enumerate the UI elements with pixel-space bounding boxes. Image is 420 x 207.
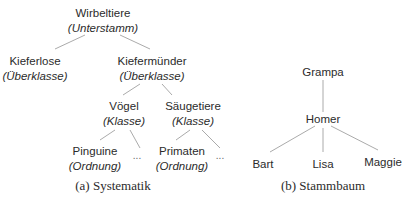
caption-systematik: (a) Systematik (75, 178, 150, 194)
node-maggie: Maggie (364, 155, 402, 170)
node-voegel: Vögel (Klasse) (103, 99, 145, 129)
node-rank: (Ordnung) (156, 159, 208, 174)
ellipsis-node: ... (133, 150, 141, 161)
node-name: Homer (306, 112, 341, 127)
node-name: Maggie (364, 155, 402, 170)
node-rank: (Überklasse) (117, 69, 186, 84)
node-name: Kieferlose (2, 54, 67, 69)
caption-stammbaum: (b) Stammbaum (281, 178, 365, 194)
node-primaten: Primaten (Ordnung) (156, 144, 208, 174)
node-name: Kiefermünder (117, 54, 186, 69)
node-lisa: Lisa (312, 157, 333, 172)
node-name: Lisa (312, 157, 333, 172)
node-rank: (Ordnung) (69, 159, 121, 174)
node-pinguine: Pinguine (Ordnung) (69, 144, 121, 174)
node-rank: (Klasse) (165, 114, 221, 129)
node-kiefermuender: Kiefermünder (Überklasse) (117, 54, 186, 84)
node-homer: Homer (306, 112, 341, 127)
node-rank: (Überklasse) (2, 69, 67, 84)
node-name: Grampa (302, 65, 344, 80)
node-saeugetiere: Säugetiere (Klasse) (165, 99, 221, 129)
node-bart: Bart (252, 157, 273, 172)
ellipsis-node: ... (216, 150, 224, 161)
node-kieferlose: Kieferlose (Überklasse) (2, 54, 67, 84)
node-name: Säugetiere (165, 99, 221, 114)
node-rank: (Klasse) (103, 114, 145, 129)
node-name: Pinguine (69, 144, 121, 159)
node-name: Primaten (156, 144, 208, 159)
node-wirbeltiere: Wirbeltiere (Unterstamm) (68, 6, 138, 36)
node-rank: (Unterstamm) (68, 21, 138, 36)
node-name: Wirbeltiere (68, 6, 138, 21)
node-name: Bart (252, 157, 273, 172)
node-name: Vögel (103, 99, 145, 114)
node-grampa: Grampa (302, 65, 344, 80)
